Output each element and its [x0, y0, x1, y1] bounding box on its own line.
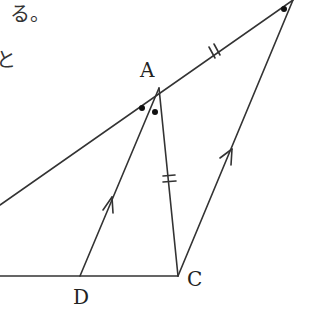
- line-through-A: [0, 0, 293, 205]
- angle-dot-icon: [152, 109, 158, 115]
- double-tick-icon: [163, 175, 176, 182]
- geometry-diagram: [0, 0, 323, 328]
- label-point-A: A: [140, 58, 154, 82]
- label-point-D: D: [73, 285, 89, 309]
- angle-dot-icon: [139, 105, 145, 111]
- double-tick-icon: [209, 44, 220, 58]
- segment-CE: [178, 0, 293, 276]
- label-point-C: C: [187, 267, 202, 291]
- segment-AD: [80, 88, 159, 276]
- angle-dot-icon: [281, 6, 287, 12]
